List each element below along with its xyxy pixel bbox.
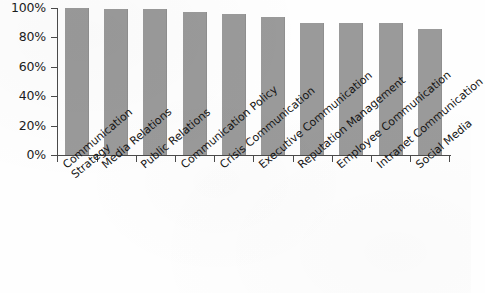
x-tick <box>371 155 372 162</box>
x-tick <box>449 155 450 162</box>
x-tick <box>57 155 58 162</box>
bar <box>65 8 89 155</box>
x-tick <box>214 155 215 162</box>
x-tick <box>293 155 294 162</box>
x-tick <box>136 155 137 162</box>
y-tick-label-40: 40% <box>19 88 46 103</box>
y-tick-label-0: 0% <box>27 147 46 162</box>
x-tick <box>253 155 254 162</box>
y-tick-label-20: 20% <box>19 118 46 133</box>
y-tick-label-100: 100% <box>11 0 46 15</box>
y-tick-label-60: 60% <box>19 59 46 74</box>
x-tick <box>175 155 176 162</box>
y-tick-label-80: 80% <box>19 29 46 44</box>
x-tick <box>410 155 411 162</box>
x-tick <box>332 155 333 162</box>
